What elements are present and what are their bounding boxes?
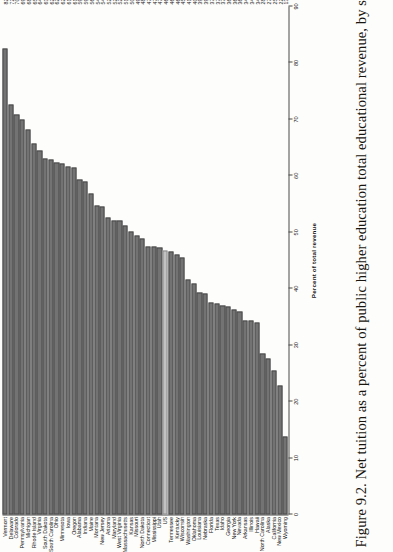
bar-row: Colorado70.8 bbox=[13, 6, 18, 514]
bar-row: New Mexico22.8 bbox=[277, 6, 282, 514]
bar-delaware: 72.6 bbox=[8, 104, 13, 514]
bar-series: Vermont82.6Delaware72.6Colorado70.8Penns… bbox=[2, 6, 288, 514]
bar-value-label: 27.6 bbox=[266, 0, 271, 4]
axis-tick bbox=[288, 513, 292, 514]
bar-value-label: 25.6 bbox=[272, 0, 277, 4]
bar-washington: 41.7 bbox=[185, 279, 190, 514]
bar-california: 25.6 bbox=[271, 370, 276, 514]
bar-value-label: 63.0 bbox=[43, 0, 48, 4]
bar-row: Oklahoma40.9 bbox=[191, 6, 196, 514]
bar-value-label: 36.8 bbox=[226, 0, 231, 4]
bar-value-label: 59.0 bbox=[83, 0, 88, 4]
category-label: Florida bbox=[208, 517, 213, 533]
bar-us: 46.8 bbox=[162, 250, 167, 514]
bar-colorado: 70.8 bbox=[13, 114, 18, 514]
bar-row: Indiana59.0 bbox=[82, 6, 87, 514]
bar-alabama: 59.4 bbox=[76, 179, 81, 514]
category-label: Connecticut bbox=[145, 517, 150, 545]
axis-tick bbox=[288, 118, 292, 119]
bar-pennsylvania: 69.9 bbox=[19, 119, 24, 514]
axis-line bbox=[288, 6, 289, 514]
bar-row: Missouri49.5 bbox=[134, 6, 139, 514]
bar-wyoming: 13.8 bbox=[282, 436, 287, 514]
bar-row: North Dakota48.9 bbox=[139, 6, 144, 514]
bar-row: New Jersey54.6 bbox=[99, 6, 104, 514]
bar-south-carolina: 62.9 bbox=[48, 159, 53, 514]
axis-tick bbox=[288, 5, 292, 6]
axis-tick-label: 20 bbox=[293, 398, 299, 404]
bar-maine: 56.9 bbox=[88, 193, 93, 514]
bar-row: Montana54.7 bbox=[94, 6, 99, 514]
axis-tick-label: 70 bbox=[293, 116, 299, 122]
bar-tennessee: 46.6 bbox=[168, 251, 173, 514]
bar-row: North Carolina28.5 bbox=[259, 6, 264, 514]
axis-tick bbox=[288, 344, 292, 345]
bar-row: Oregon61.4 bbox=[71, 6, 76, 514]
bar-row: Wyoming13.8 bbox=[282, 6, 287, 514]
bar-vermont: 82.6 bbox=[2, 48, 7, 514]
bar-georgia: 36.8 bbox=[225, 306, 230, 514]
bar-row: Rhode Island65.7 bbox=[31, 6, 36, 514]
bar-row: Washington41.7 bbox=[185, 6, 190, 514]
bar-row: South Dakota63.0 bbox=[42, 6, 47, 514]
bar-row: Utah47.3 bbox=[156, 6, 161, 514]
bar-row: Wisconsin45.6 bbox=[179, 6, 184, 514]
axis-tick-label: 60 bbox=[293, 172, 299, 178]
category-label: Washington bbox=[185, 517, 190, 545]
bar-new-york: 36.4 bbox=[231, 309, 236, 514]
bar-value-label: 56.9 bbox=[89, 0, 94, 4]
axis-tick-label: 0 bbox=[293, 512, 299, 515]
bar-row: Mississippi47.4 bbox=[151, 6, 156, 514]
bar-row: US46.8 bbox=[162, 6, 167, 514]
axis-tick-label: 50 bbox=[293, 229, 299, 235]
bar-value-label: 13.8 bbox=[283, 0, 288, 4]
bar-north-dakota: 48.9 bbox=[139, 238, 144, 514]
axis-tick-label: 40 bbox=[293, 285, 299, 291]
bar-kentucky: 46.0 bbox=[174, 254, 179, 514]
bar-row: West Virginia52.0 bbox=[116, 6, 121, 514]
bar-illinois: 34.3 bbox=[248, 320, 253, 514]
bar-row: Florida37.5 bbox=[208, 6, 213, 514]
bar-texas: 37.4 bbox=[214, 303, 219, 514]
bar-iowa: 61.7 bbox=[65, 166, 70, 514]
bar-south-dakota: 63.0 bbox=[42, 158, 47, 514]
category-label: Vermont bbox=[2, 517, 7, 537]
bar-north-carolina: 28.5 bbox=[259, 353, 264, 514]
axis-tick bbox=[288, 61, 292, 62]
bar-missouri: 49.5 bbox=[134, 235, 139, 514]
bar-row: Vermont82.6 bbox=[2, 6, 7, 514]
bar-row: Maine56.9 bbox=[88, 6, 93, 514]
bar-value-label: 46.6 bbox=[169, 0, 174, 4]
bar-row: Alabama59.4 bbox=[76, 6, 81, 514]
bar-row: South Carolina62.9 bbox=[48, 6, 53, 514]
bar-nebraska: 39.2 bbox=[202, 293, 207, 514]
bar-row: Minnesota62.2 bbox=[59, 6, 64, 514]
axis-title: Percent of total revenue bbox=[309, 6, 316, 514]
bar-idaho: 37.0 bbox=[219, 305, 224, 514]
bar-row: Alaska27.6 bbox=[265, 6, 270, 514]
bar-louisiana: 39.3 bbox=[196, 292, 201, 514]
bar-michigan: 68.2 bbox=[25, 129, 30, 514]
bar-new-mexico: 22.8 bbox=[277, 385, 282, 514]
bar-row: Iowa61.7 bbox=[65, 6, 70, 514]
bar-row: Nevada36.0 bbox=[236, 6, 241, 514]
bar-row: Tennessee46.6 bbox=[168, 6, 173, 514]
bar-row: Virginia64.5 bbox=[36, 6, 41, 514]
bar-oregon: 61.4 bbox=[71, 167, 76, 514]
bar-row: Texas37.4 bbox=[214, 6, 219, 514]
bar-new-jersey: 54.6 bbox=[99, 206, 104, 514]
bar-row: Delaware72.6 bbox=[8, 6, 13, 514]
bar-value-label: 37.5 bbox=[209, 0, 214, 4]
bar-value-label: 82.6 bbox=[3, 0, 8, 4]
bar-indiana: 59.0 bbox=[82, 181, 87, 514]
bar-row: Illinois34.3 bbox=[248, 6, 253, 514]
bar-row: Idaho37.0 bbox=[219, 6, 224, 514]
axis-tick bbox=[288, 174, 292, 175]
axis-tick-label: 10 bbox=[293, 454, 299, 460]
bar-value-label: 50.1 bbox=[129, 0, 134, 4]
bar-nevada: 36.0 bbox=[236, 311, 241, 514]
bar-row: Hawaii34.0 bbox=[254, 6, 259, 514]
bar-row: Arkansas34.3 bbox=[242, 6, 247, 514]
category-label: Iowa bbox=[65, 517, 70, 528]
